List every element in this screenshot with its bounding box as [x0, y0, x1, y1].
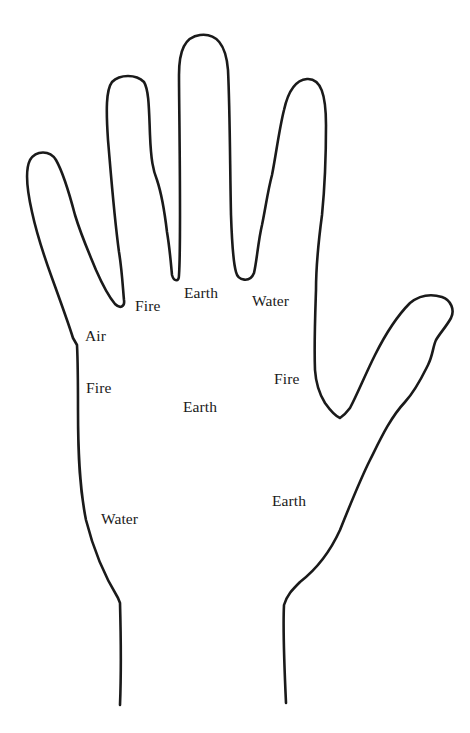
label-fire-thumb-side: Fire [274, 371, 299, 387]
hand-outline-diagram [0, 0, 470, 733]
label-earth-middle-base: Earth [184, 285, 218, 301]
label-air-little-base: Air [85, 328, 106, 344]
label-water-lower-outer-palm: Water [101, 511, 138, 527]
label-water-ring-base: Water [252, 293, 289, 309]
label-fire-upper-outer-palm: Fire [86, 380, 111, 396]
label-fire-index-base: Fire [135, 298, 160, 314]
hand-outline [27, 35, 452, 705]
label-earth-thumb-mount: Earth [272, 493, 306, 509]
label-earth-palm-center: Earth [183, 399, 217, 415]
